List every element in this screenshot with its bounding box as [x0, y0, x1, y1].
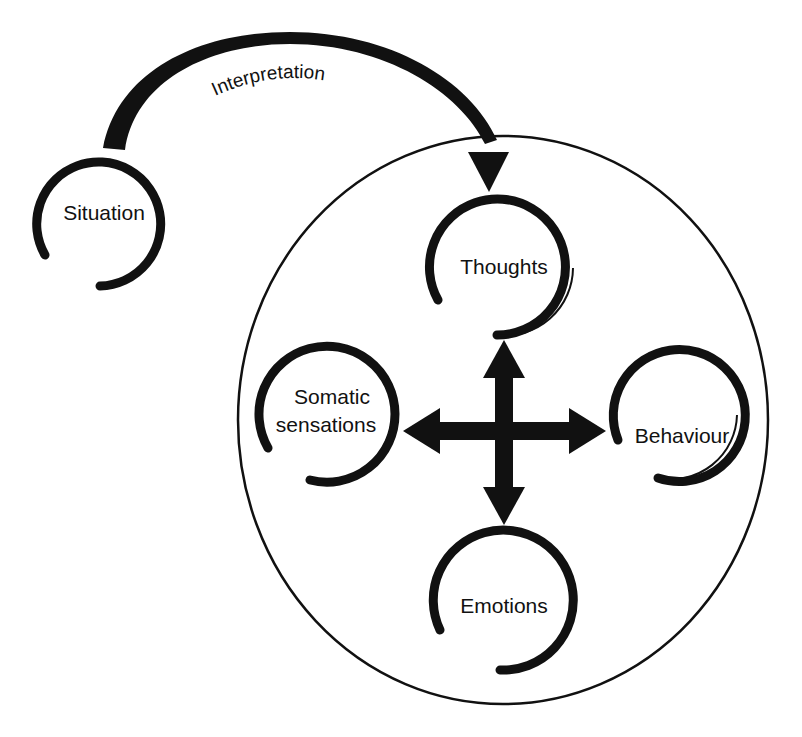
thoughts-node: Thoughts	[429, 199, 573, 335]
behaviour-node: Behaviour	[613, 350, 745, 482]
somatic-label-line1: Somatic	[294, 385, 370, 408]
somatic-label-line2: sensations	[276, 413, 376, 436]
situation-label: Situation	[63, 201, 145, 224]
interpretation-arrow	[103, 32, 509, 192]
emotions-label: Emotions	[460, 594, 548, 617]
behaviour-label: Behaviour	[635, 424, 730, 447]
interpretation-label: Interpretation	[208, 61, 326, 100]
arrowhead-down-icon	[468, 152, 509, 192]
diagram-canvas: Interpretation Situation Thoughts Somati…	[0, 0, 802, 737]
emotions-node: Emotions	[433, 530, 576, 670]
brush-circle-icon	[613, 350, 745, 482]
situation-node: Situation	[37, 162, 161, 286]
somatic-sensations-node: Somatic sensations	[259, 346, 395, 482]
four-way-arrow-icon	[403, 340, 606, 525]
thoughts-label: Thoughts	[460, 255, 548, 278]
